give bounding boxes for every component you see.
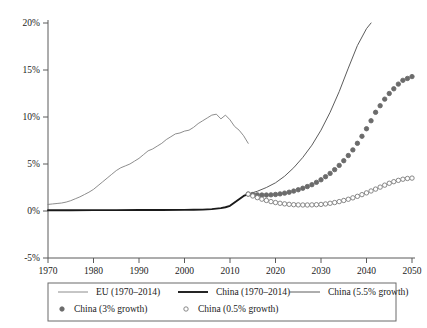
series-0 [48, 114, 248, 204]
series-3 [246, 74, 414, 197]
y-tick-label: 0% [27, 206, 40, 216]
x-tick-label: 2020 [266, 266, 285, 276]
y-tick-label: 15% [23, 65, 41, 75]
legend-label: China (5.5% growth) [328, 287, 408, 298]
x-tick-label: 1970 [39, 266, 58, 276]
y-tick-label: 5% [27, 159, 40, 169]
legend-label: China (3% growth) [74, 304, 147, 315]
legend-label: EU (1970–2014) [96, 287, 160, 298]
y-tick-group: 20%15%10%5%0%-5% [23, 18, 48, 263]
legend-item-1[interactable]: China (1970–2014) [178, 287, 290, 298]
x-tick-group: 197019801990200020102020203020402050 [39, 258, 422, 276]
legend-item-4[interactable]: China (0.5% growth) [184, 304, 279, 315]
chart-container: 20%15%10%5%0%-5% 19701980199020002010202… [0, 0, 427, 328]
x-tick-label: 2030 [312, 266, 331, 276]
legend-item-2[interactable]: China (5.5% growth) [290, 287, 408, 298]
legend-item-0[interactable]: EU (1970–2014) [58, 287, 160, 298]
y-tick-label: 20% [23, 18, 41, 28]
x-tick-label: 1990 [130, 266, 149, 276]
legend-label: China (0.5% growth) [198, 304, 278, 315]
series-1 [48, 194, 248, 210]
legend-label: China (1970–2014) [216, 287, 290, 298]
y-tick-label: 10% [23, 112, 41, 122]
x-tick-label: 2040 [357, 266, 376, 276]
x-tick-label: 2050 [403, 266, 422, 276]
series-4 [246, 176, 414, 207]
x-tick-label: 1980 [84, 266, 103, 276]
series-2 [248, 23, 371, 194]
y-tick-label: -5% [24, 253, 40, 263]
series-layer [48, 23, 414, 210]
x-tick-label: 2010 [221, 266, 240, 276]
legend-layer: EU (1970–2014)China (1970–2014)China (5.… [58, 287, 408, 315]
x-tick-label: 2000 [175, 266, 194, 276]
legend-item-3[interactable]: China (3% growth) [60, 304, 148, 315]
chart-svg: 20%15%10%5%0%-5% 19701980199020002010202… [0, 0, 427, 328]
